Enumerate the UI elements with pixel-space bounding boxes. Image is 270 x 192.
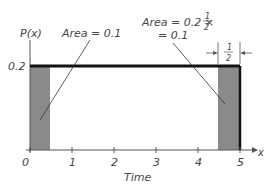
- x-axis-title: Time: [124, 171, 151, 184]
- x-axis-end-label: x: [257, 147, 264, 158]
- right-area-annotation-line2: = 0.1: [158, 29, 188, 42]
- left-area-annotation: Area = 0.1: [61, 27, 121, 40]
- right-annotation-fraction-num: 1: [205, 12, 210, 21]
- dimension-fraction-den: 2: [226, 54, 231, 63]
- x-tick-0: 0: [22, 156, 29, 169]
- dimension-fraction-num: 1: [227, 43, 232, 52]
- right-shaded-region: [218, 66, 239, 150]
- right-annotation-fraction-den: 2: [204, 23, 209, 32]
- x-tick-2: 2: [111, 156, 118, 169]
- right-leader-line: [173, 43, 225, 104]
- x-tick-5: 5: [237, 156, 244, 169]
- x-tick-4: 4: [195, 156, 202, 169]
- uniform-distribution-chart: 0 1 2 3 4 5 x Time 0.2 P(x) Area = 0.1 A…: [0, 0, 270, 192]
- dimension-arrowhead-left-icon: [213, 51, 218, 55]
- left-shaded-region: [30, 66, 50, 150]
- x-tick-3: 3: [153, 156, 160, 169]
- y-tick-0.2: 0.2: [8, 60, 26, 73]
- y-axis-title: P(x): [20, 27, 42, 40]
- dimension-arrowhead-right-icon: [240, 51, 245, 55]
- x-tick-1: 1: [69, 156, 76, 169]
